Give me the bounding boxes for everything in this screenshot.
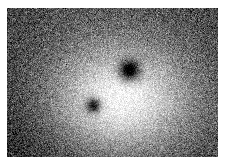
grayscale-noise-image [7, 8, 218, 157]
image-plate [7, 8, 218, 157]
figure-caption [7, 158, 218, 166]
figure-root [0, 0, 225, 166]
